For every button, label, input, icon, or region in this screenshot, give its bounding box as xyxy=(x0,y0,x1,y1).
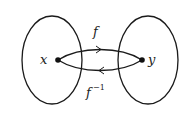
label-x: x xyxy=(40,52,48,67)
arrow-f-inverse xyxy=(58,60,142,71)
label-f-inverse-superscript: −1 xyxy=(93,83,105,92)
arrow-f xyxy=(58,50,142,61)
point-y xyxy=(139,57,145,63)
function-diagram: x y f f −1 xyxy=(0,0,192,123)
label-y: y xyxy=(147,52,156,67)
point-x xyxy=(55,57,61,63)
domain-set xyxy=(22,16,82,104)
label-f: f xyxy=(92,24,100,39)
label-f-inverse: f xyxy=(85,85,93,100)
